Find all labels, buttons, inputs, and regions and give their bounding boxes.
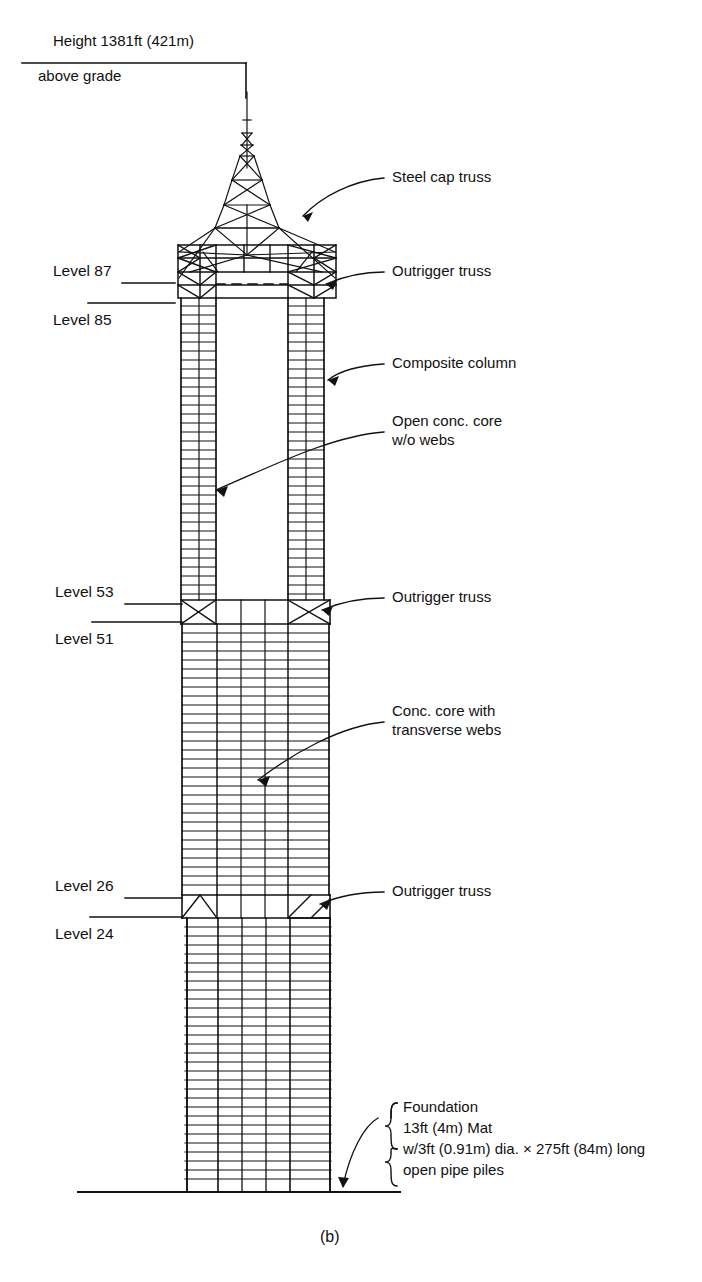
outrigger-truss-low-structure	[182, 895, 330, 918]
height-note-line2: above grade	[38, 66, 121, 85]
callout-outrigger-truss-top: Outrigger truss	[392, 261, 491, 280]
callout-open-conc-core: Open conc. core w/o webs	[392, 411, 502, 449]
level-label-53: Level 53	[55, 582, 114, 601]
lower-shaft	[185, 918, 331, 1192]
level-label-85: Level 85	[53, 310, 112, 329]
foundation-note-line1: Foundation	[403, 1097, 478, 1118]
foundation-note-line2: 13ft (4m) Mat	[403, 1118, 492, 1139]
foundation-note-line3: w/3ft (0.91m) dia. × 275ft (84m) long	[403, 1139, 645, 1160]
upper-shaft	[181, 298, 324, 600]
level-label-51: Level 51	[55, 629, 114, 648]
figure-caption: (b)	[320, 1228, 340, 1246]
middle-shaft	[182, 624, 329, 895]
level-label-24: Level 24	[55, 924, 114, 943]
callout-outrigger-truss-low: Outrigger truss	[392, 881, 491, 900]
callout-conc-core-webs: Conc. core with transverse webs	[392, 701, 501, 739]
level-label-87: Level 87	[53, 261, 112, 280]
callout-outrigger-truss-mid: Outrigger truss	[392, 587, 491, 606]
outrigger-truss-mid-structure	[181, 600, 330, 624]
height-note-line1: Height 1381ft (421m)	[53, 31, 194, 50]
callout-composite-column: Composite column	[392, 353, 516, 372]
tower-section-figure: Height 1381ft (421m) above grade Level 8…	[0, 0, 702, 1282]
callout-steel-cap-truss: Steel cap truss	[392, 167, 491, 186]
level-label-26: Level 26	[55, 876, 114, 895]
foundation-note-line4: open pipe piles	[403, 1160, 504, 1181]
foundation-brace	[385, 1103, 397, 1186]
